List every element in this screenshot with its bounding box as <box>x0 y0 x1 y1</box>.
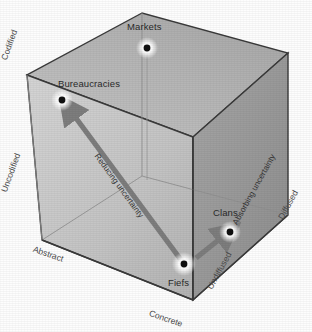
diagram-canvas: Markets Bureaucracies Clans Fiefs Codifi… <box>0 0 312 332</box>
node-fiefs[interactable] <box>172 252 196 276</box>
node-label-markets: Markets <box>127 21 161 32</box>
node-label-fiefs: Fiefs <box>168 277 189 288</box>
node-label-bureaucracies: Bureaucracies <box>58 78 120 89</box>
node-bureaucracies[interactable] <box>51 89 73 111</box>
node-markets[interactable] <box>136 37 158 59</box>
